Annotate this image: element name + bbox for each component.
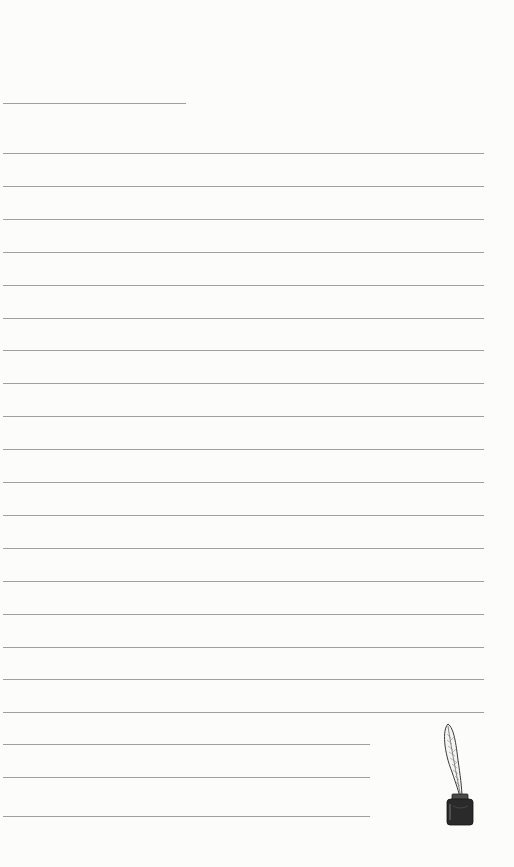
ruled-line [3, 647, 484, 648]
ruled-line [3, 712, 484, 713]
ruled-line [3, 219, 484, 220]
ruled-line [3, 515, 484, 516]
ruled-line [3, 614, 484, 615]
ruled-line [3, 186, 484, 187]
ruled-line [3, 416, 484, 417]
ruled-line [3, 482, 484, 483]
ruled-line-short [3, 777, 370, 778]
ruled-line [3, 449, 484, 450]
ruled-line [3, 318, 484, 319]
ruled-line [3, 285, 484, 286]
ruled-line [3, 548, 484, 549]
ruled-line [3, 581, 484, 582]
ruled-line [3, 153, 484, 154]
ruled-line [3, 679, 484, 680]
ruled-line-short [3, 744, 370, 745]
quill-inkwell-icon [438, 722, 478, 826]
ruled-line [3, 383, 484, 384]
ruled-line [3, 252, 484, 253]
notepaper-page [0, 0, 514, 867]
header-rule [3, 103, 186, 104]
ruled-line-short [3, 816, 370, 817]
ruled-line [3, 350, 484, 351]
